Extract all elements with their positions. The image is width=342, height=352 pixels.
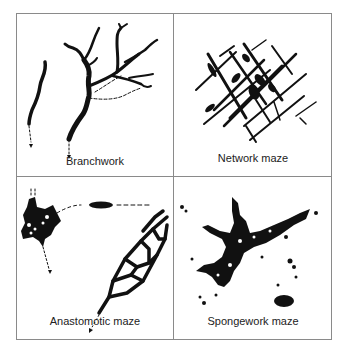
caption-anastomotic-maze: Anastomotic maze (17, 315, 173, 327)
panel-spongework-maze: Spongework maze (174, 177, 332, 340)
panel-branchwork: Branchwork (17, 14, 173, 176)
panel-network-maze: Network maze (174, 14, 332, 176)
panel-anastomotic-maze: Anastomotic maze (17, 177, 173, 340)
caption-network-maze: Network maze (174, 152, 332, 164)
branchwork-illustration (17, 14, 173, 176)
caption-spongework-maze: Spongework maze (174, 315, 332, 327)
caption-branchwork: Branchwork (17, 155, 173, 167)
